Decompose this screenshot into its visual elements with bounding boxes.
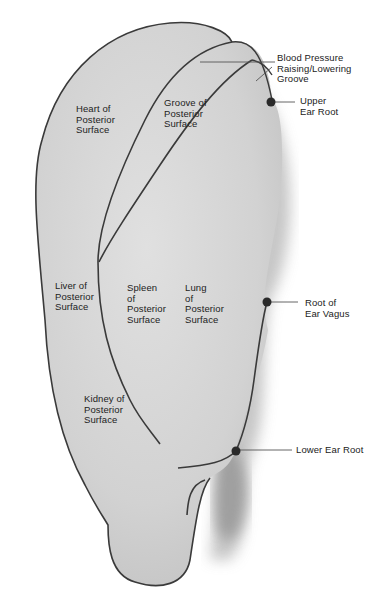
root-ear-vagus-point bbox=[263, 298, 272, 307]
region-kidney-label: Kidney of Posterior Surface bbox=[84, 394, 125, 426]
region-lung-label: Lung of Posterior Surface bbox=[185, 283, 224, 325]
callout-lower-ear-root-label: Lower Ear Root bbox=[296, 445, 363, 456]
callout-upper-ear-root-label: Upper Ear Root bbox=[300, 96, 338, 117]
region-groove-label: Groove of Posterior Surface bbox=[164, 98, 207, 130]
callout-bp-groove-label: Blood Pressure Raising/Lowering Groove bbox=[277, 53, 351, 85]
region-heart-label: Heart of Posterior Surface bbox=[76, 104, 115, 136]
callout-root-ear-vagus-label: Root of Ear Vagus bbox=[305, 298, 350, 319]
ear-diagram: Heart of Posterior Surface Groove of Pos… bbox=[0, 0, 381, 605]
upper-ear-root-point bbox=[267, 98, 276, 107]
region-liver-label: Liver of Posterior Surface bbox=[55, 281, 94, 313]
lower-ear-root-point bbox=[232, 447, 241, 456]
region-spleen-label: Spleen of Posterior Surface bbox=[127, 283, 166, 325]
